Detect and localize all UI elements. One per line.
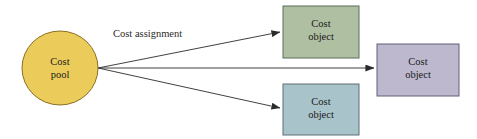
cost-pool-ellipse[interactable] <box>22 31 98 105</box>
cost-assignment-diagram: Cost pool Cost object Cost object Cost o… <box>0 0 477 139</box>
cost-assignment-edge-label: Cost assignment <box>113 28 182 40</box>
diagram-canvas <box>0 0 477 139</box>
cost-object-green-rect[interactable] <box>283 6 359 58</box>
cost-object-purple-rect[interactable] <box>377 44 459 96</box>
edge-to-blue-object <box>98 68 280 108</box>
cost-object-blue-rect[interactable] <box>283 84 359 135</box>
